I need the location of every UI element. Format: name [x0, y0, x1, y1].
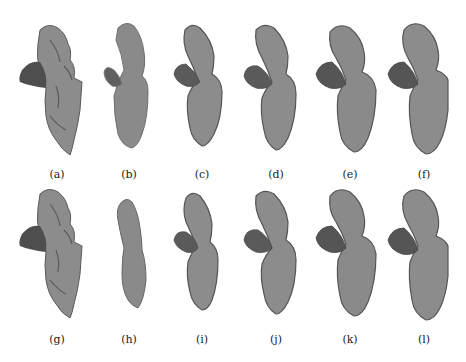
organ-shape-mid-detailed — [0, 0, 460, 340]
panel-label: (l) — [418, 333, 430, 346]
